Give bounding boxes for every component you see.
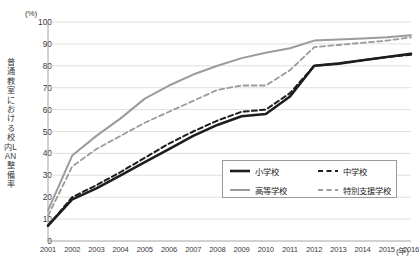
legend-label-1: 中学校 [343, 165, 367, 177]
legend-label-3: 特別支援学校 [343, 184, 390, 196]
series-line [48, 55, 411, 226]
legend-item-1: 中学校 [311, 165, 398, 177]
plot-area [0, 0, 419, 264]
legend-item-3: 特別支援学校 [311, 184, 398, 196]
legend-label-0: 小学校 [255, 165, 279, 177]
legend-swatch-line-2 [230, 185, 250, 195]
legend-item-2: 高等学校 [223, 184, 311, 196]
legend-item-0: 小学校 [223, 165, 311, 177]
legend-swatch-line-3 [318, 185, 338, 195]
series-line [48, 54, 411, 226]
chart-container: (%) (年) 普通教室における校内LAN整備率 100908070605040… [0, 0, 419, 264]
legend-swatch-line-0 [230, 166, 250, 176]
legend-swatch-line-1 [318, 166, 338, 176]
legend-label-2: 高等学校 [255, 184, 287, 196]
chart-legend: 小学校 中学校 高等学校 特別支援学校 [222, 160, 397, 198]
